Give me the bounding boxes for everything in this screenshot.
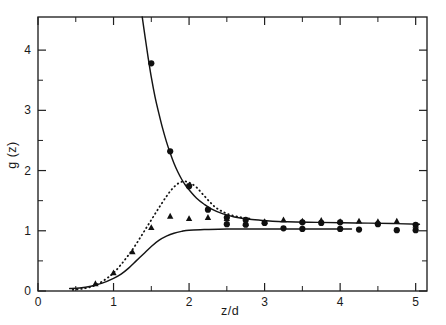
data-point-triangle bbox=[280, 216, 286, 222]
x-tick-label: 4 bbox=[337, 295, 344, 309]
data-point-circle bbox=[413, 227, 419, 233]
data-point-circle bbox=[356, 226, 362, 232]
data-point-circle bbox=[280, 225, 286, 231]
data-point-circle bbox=[167, 148, 173, 154]
y-axis-tick-labels: 01234 bbox=[24, 43, 31, 298]
data-point-circle bbox=[337, 226, 343, 232]
x-tick-label: 5 bbox=[412, 295, 419, 309]
data-point-circle bbox=[224, 221, 230, 227]
data-point-triangle bbox=[318, 217, 324, 223]
x-tick-label: 1 bbox=[110, 295, 117, 309]
y-tick-label: 0 bbox=[24, 284, 31, 298]
scatter-plot: 012345 01234 z/d g (z) bbox=[0, 0, 446, 325]
data-point-triangle bbox=[356, 218, 362, 224]
y-tick-label: 2 bbox=[24, 164, 31, 178]
x-tick-label: 2 bbox=[186, 295, 193, 309]
curve-lower-solid-curve bbox=[70, 229, 352, 289]
x-axis-ticks bbox=[38, 17, 416, 291]
x-tick-label: 3 bbox=[261, 295, 268, 309]
y-axis-title: g (z) bbox=[5, 141, 19, 169]
curve-upper-solid-curve bbox=[142, 17, 419, 224]
data-point-triangle bbox=[92, 280, 98, 286]
data-point-circle bbox=[148, 60, 154, 66]
x-tick-label: 0 bbox=[35, 295, 42, 309]
data-marker-layer bbox=[92, 60, 419, 286]
data-point-triangle bbox=[129, 248, 135, 254]
data-point-circle bbox=[394, 227, 400, 233]
data-point-circle bbox=[205, 207, 211, 213]
y-axis-ticks bbox=[38, 50, 427, 291]
data-point-triangle bbox=[205, 214, 211, 220]
data-point-circle bbox=[186, 183, 192, 189]
data-point-circle bbox=[299, 226, 305, 232]
curve-dotted-curve bbox=[73, 181, 251, 289]
data-point-triangle bbox=[394, 218, 400, 224]
y-tick-label: 4 bbox=[24, 43, 31, 57]
y-tick-label: 1 bbox=[24, 224, 31, 238]
data-point-triangle bbox=[375, 218, 381, 224]
x-axis-title: z/d bbox=[221, 304, 239, 318]
data-point-triangle bbox=[167, 213, 173, 219]
curve-layer bbox=[70, 17, 420, 290]
data-point-triangle bbox=[110, 269, 116, 275]
figure-container: 012345 01234 z/d g (z) bbox=[0, 0, 446, 325]
y-tick-label: 3 bbox=[24, 103, 31, 117]
plot-frame bbox=[38, 17, 427, 291]
data-point-triangle bbox=[148, 224, 154, 230]
data-point-triangle bbox=[186, 215, 192, 221]
